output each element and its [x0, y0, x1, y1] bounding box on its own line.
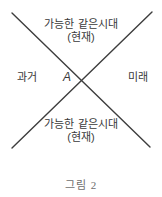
bottom-region-label-line1: 가능한 같은시대 [0, 118, 162, 131]
top-region-label: 가능한 같은시대 (현재) [0, 18, 162, 44]
top-region-label-line2: (현재) [0, 31, 162, 44]
left-region-label: 과거 [17, 71, 37, 84]
bottom-region-label: 가능한 같은시대 (현재) [0, 118, 162, 144]
figure-diagram: 가능한 같은시대 (현재) 과거 A 미래 가능한 같은시대 (현재) 그림 2 [0, 0, 162, 197]
figure-caption: 그림 2 [0, 176, 162, 192]
vertex-point-label: A [63, 71, 71, 84]
right-region-label: 미래 [128, 71, 148, 84]
top-region-label-line1: 가능한 같은시대 [0, 18, 162, 31]
bottom-region-label-line2: (현재) [0, 131, 162, 144]
